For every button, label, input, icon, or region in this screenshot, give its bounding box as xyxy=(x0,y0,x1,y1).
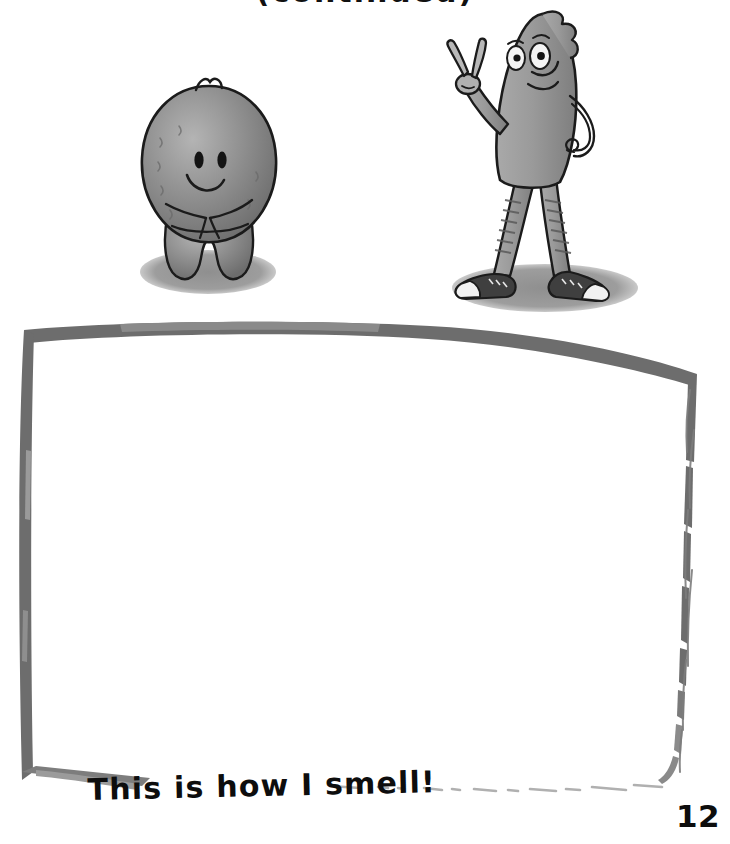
tall-teardrop-character xyxy=(447,12,609,301)
blob-shadow xyxy=(140,250,276,294)
worksheet-page: (continued) xyxy=(0,0,730,844)
peace-sign-hand xyxy=(447,39,486,94)
blob-eye-right xyxy=(217,152,226,169)
blob-eye-left xyxy=(194,152,203,169)
illustration xyxy=(0,0,730,320)
fuzzy-blob-character xyxy=(142,79,276,279)
page-number: 12 xyxy=(676,798,720,834)
empty-drawing-area[interactable] xyxy=(0,310,730,810)
